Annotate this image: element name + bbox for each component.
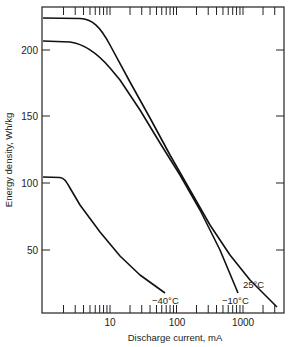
- series-m40c-line: [43, 177, 165, 293]
- y-tick-label: 50: [27, 245, 39, 256]
- plot-frame: [42, 7, 284, 313]
- series-25c-line: [43, 18, 277, 307]
- chart: 200 150 100 50 10 100 1000 Discharge cur…: [0, 0, 293, 347]
- x-axis-label: Discharge current, mA: [128, 332, 223, 343]
- x-tick-label: 100: [169, 317, 186, 328]
- y-tick-label: 150: [21, 111, 38, 122]
- x-tick-label: 1000: [232, 317, 255, 328]
- y-axis-label: Energy density, Wh/kg: [3, 113, 14, 207]
- series-label-m10c: −10°C: [222, 295, 249, 306]
- y-ticks: [42, 50, 284, 250]
- series-m10c-line: [43, 41, 238, 293]
- series-label-m40c: −40°C: [152, 295, 179, 306]
- y-tick-label: 100: [21, 178, 38, 189]
- series-label-25c: 25°C: [243, 279, 264, 290]
- x-tick-label: 10: [104, 317, 116, 328]
- y-tick-label: 200: [21, 45, 38, 56]
